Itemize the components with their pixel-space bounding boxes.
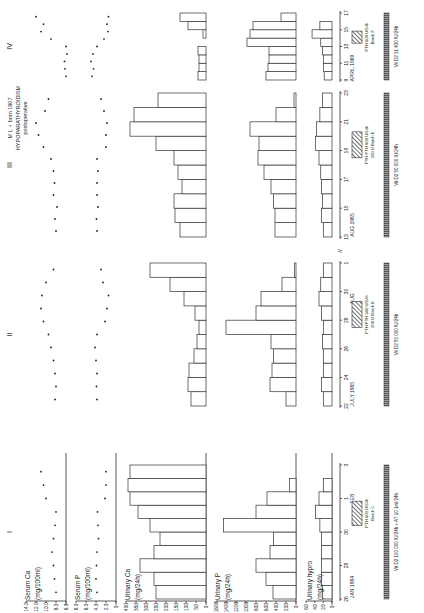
dot-serum_ca — [43, 484, 45, 486]
dot-serum_ca — [54, 399, 56, 401]
bar-urinary_hypro — [316, 505, 332, 518]
treatment-label: Batch F — [370, 29, 375, 44]
tick-label: 50 — [194, 604, 199, 610]
dot-serum_p — [92, 53, 94, 55]
bar-urinary_hypro — [319, 151, 332, 165]
dot-serum_ca — [65, 75, 67, 77]
bar-urinary_hypro — [322, 559, 332, 572]
period-III: 131517192123AUG 1965PTH PTH 600 U/24h200… — [6, 90, 399, 240]
bar-urinary_hypro — [322, 47, 332, 55]
diagnosis-label: HYPOPARATHYROIDISM — [15, 85, 21, 150]
bar-urinary_hypro — [322, 532, 332, 545]
dot-serum_ca — [55, 591, 57, 593]
bar-urinary_ca — [188, 21, 206, 29]
tick-label: 250 — [154, 603, 159, 611]
bar-urinary_p — [256, 505, 296, 518]
bar-urinary_hypro — [323, 223, 332, 237]
dot-serum_ca — [53, 538, 55, 540]
bar-urinary_ca — [189, 363, 206, 377]
dot-serum_ca — [51, 551, 53, 553]
period-IV: 911131517APRIL 1969PTH 600 U/24hBatch FV… — [6, 10, 399, 82]
bar-urinary_p — [295, 263, 297, 277]
dot-serum_ca — [56, 206, 58, 208]
dot-serum_ca — [54, 578, 56, 580]
bar-urinary_ca — [130, 465, 206, 478]
dot-serum_p — [97, 206, 99, 208]
bar-urinary_hypro — [320, 519, 332, 532]
tick-label: 150 — [174, 603, 179, 611]
bar-urinary_ca — [154, 572, 206, 585]
pth-treatment-box — [352, 31, 362, 43]
tick-label: 0 — [330, 605, 335, 608]
bar-urinary_ca — [198, 72, 206, 80]
dot-serum_p — [91, 75, 93, 77]
dot-serum_ca — [35, 122, 37, 124]
dot-serum_p — [96, 182, 98, 184]
bar-urinary_hypro — [323, 349, 332, 363]
bar-urinary_ca — [180, 223, 206, 237]
bar-urinary_hypro — [319, 492, 332, 505]
dot-serum_ca — [64, 60, 66, 62]
dot-serum_p — [95, 578, 97, 580]
bar-urinary_p — [286, 392, 296, 406]
date-label: JULY 1965 — [349, 382, 355, 406]
bar-urinary_ca — [195, 306, 206, 320]
dot-serum_p — [96, 46, 98, 48]
bar-urinary_p — [226, 320, 296, 334]
axis-title-serum_ca: Serum Ca — [24, 570, 31, 600]
dot-serum_ca — [53, 269, 55, 271]
bar-urinary_ca — [174, 151, 206, 165]
dot-serum_ca — [44, 110, 46, 112]
bar-urinary_hypro — [323, 63, 332, 71]
bar-urinary_ca — [160, 532, 206, 545]
bar-urinary_p — [275, 223, 296, 237]
bar-urinary_p — [264, 165, 296, 179]
bar-urinary_p — [273, 586, 296, 599]
dot-serum_ca — [45, 498, 47, 500]
bar-urinary_p — [274, 349, 297, 363]
bar-urinary_p — [258, 151, 296, 165]
tick-label: 8.0 — [74, 603, 79, 610]
tick-label: 40 — [313, 604, 318, 610]
bar-urinary_ca — [175, 208, 206, 222]
bar-urinary_hypro — [323, 55, 332, 63]
tick-label: 400 — [124, 603, 129, 611]
dot-serum_p — [105, 471, 107, 473]
bar-urinary_ca — [150, 519, 206, 532]
dot-serum_ca — [53, 194, 55, 196]
dot-serum_p — [106, 122, 108, 124]
axis-break: // — [337, 249, 343, 253]
dot-serum_ca — [35, 16, 37, 18]
bar-urinary_ca — [130, 492, 206, 505]
dot-serum_p — [96, 386, 98, 388]
bar-urinary_p — [294, 93, 296, 107]
dot-serum_p — [98, 538, 100, 540]
dot-serum_p — [96, 334, 98, 336]
dot-serum_p — [106, 23, 108, 25]
bar-urinary_ca — [197, 335, 206, 349]
dot-serum_ca — [40, 308, 42, 310]
dot-serum_ca — [43, 23, 45, 25]
dot-serum_ca — [48, 98, 50, 100]
dot-serum_ca — [65, 46, 67, 48]
dot-serum_p — [104, 321, 106, 323]
chart-panels: 26283013JAN 1964FEBPTH 600 U/24hBatch CV… — [6, 10, 399, 602]
vitamin-d-bar — [384, 263, 389, 406]
dot-serum_p — [108, 16, 110, 18]
bar-urinary_ca — [128, 478, 206, 491]
dot-serum_p — [96, 218, 98, 220]
bar-urinary_p — [253, 21, 296, 29]
bar-urinary_p — [256, 306, 296, 320]
tick-label: 200 — [284, 603, 289, 611]
bar-urinary_hypro — [316, 122, 332, 136]
pth-treatment-box — [352, 302, 362, 328]
treatment-label: 200 U Batch E — [370, 131, 375, 158]
dot-serum_ca — [55, 511, 57, 513]
dot-serum_ca — [50, 347, 52, 349]
tick-label: 100 — [184, 603, 189, 611]
date-tick: 19 — [343, 148, 349, 154]
bar-urinary_hypro — [323, 392, 332, 406]
vitamin-d-bar — [384, 465, 389, 599]
bar-urinary_ca — [191, 392, 206, 406]
dot-serum_ca — [48, 334, 50, 336]
